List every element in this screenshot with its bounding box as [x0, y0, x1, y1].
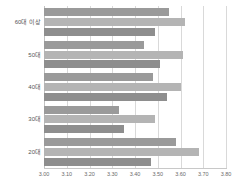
- gridline: [203, 6, 204, 168]
- x-tick-label: 3.70: [198, 172, 209, 178]
- x-tick-label: 3.40: [130, 172, 141, 178]
- category-label: 40대: [0, 84, 41, 90]
- bar: [44, 83, 181, 91]
- category-label: 30대: [0, 116, 41, 122]
- gridline: [181, 6, 182, 168]
- bar: [44, 115, 155, 123]
- plot-area: [44, 6, 226, 168]
- bar: [44, 73, 153, 81]
- x-axis-line: [44, 168, 227, 169]
- bar: [44, 93, 167, 101]
- bar: [44, 8, 169, 16]
- x-tick-label: 3.60: [175, 172, 186, 178]
- bar: [44, 148, 199, 156]
- x-tick-label: 3.50: [152, 172, 163, 178]
- bar: [44, 106, 119, 114]
- category-label: 20대: [0, 149, 41, 155]
- bar: [44, 18, 185, 26]
- category-label: 50대: [0, 52, 41, 58]
- x-tick-label: 3.80: [221, 172, 232, 178]
- bar: [44, 138, 176, 146]
- bar: [44, 158, 151, 166]
- bar: [44, 125, 124, 133]
- bar-chart: 60대 이상50대40대30대20대 3.003.103.203.303.403…: [0, 0, 233, 192]
- bar: [44, 28, 155, 36]
- bar: [44, 60, 160, 68]
- bar: [44, 41, 144, 49]
- bar: [44, 51, 183, 59]
- category-label: 60대 이상: [0, 19, 41, 25]
- x-tick-label: 3.20: [84, 172, 95, 178]
- x-tick-label: 3.10: [61, 172, 72, 178]
- x-tick-label: 3.30: [107, 172, 118, 178]
- x-tick-label: 3.00: [39, 172, 50, 178]
- gridline: [226, 6, 227, 168]
